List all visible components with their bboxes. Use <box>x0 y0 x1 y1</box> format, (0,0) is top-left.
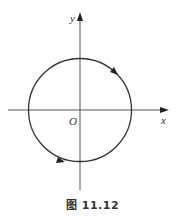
coordinate-diagram <box>0 0 185 216</box>
origin-label: O <box>69 116 77 127</box>
direction-arrow-icon <box>110 67 118 75</box>
figure-caption: 图 11.12 <box>0 196 185 212</box>
diagram-figure: y x O 图 11.12 <box>0 0 185 216</box>
x-axis-label: x <box>161 115 166 126</box>
x-axis-arrow-icon <box>160 107 169 113</box>
y-axis-arrow-icon <box>77 12 83 21</box>
y-axis-label: y <box>70 13 75 24</box>
